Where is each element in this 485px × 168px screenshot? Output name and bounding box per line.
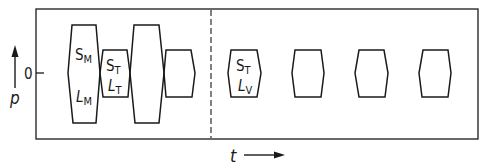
y-axis-arrow	[12, 45, 19, 88]
svg-text:LM: LM	[76, 88, 92, 108]
pulse-7-shape	[355, 50, 388, 97]
pulse-8-shape	[419, 50, 451, 97]
svg-text:LT: LT	[108, 77, 123, 97]
y-axis-label: p	[9, 88, 20, 108]
svg-text:ST: ST	[106, 57, 122, 77]
pulse-5-labels: ST LV	[236, 57, 253, 97]
x-axis-label: t	[230, 145, 237, 166]
x-axis-arrow	[244, 152, 285, 159]
pulse-6-shape	[292, 50, 324, 97]
svg-text:LV: LV	[238, 77, 253, 97]
pulse-diagram: p 0 SM LM ST LT ST LV t	[0, 0, 485, 168]
pulse-2-labels: ST LT	[106, 57, 123, 97]
plot-frame	[36, 9, 478, 139]
pulse-1-shape	[68, 25, 100, 123]
svg-text:ST: ST	[236, 57, 252, 77]
pulse-3-shape	[130, 25, 164, 123]
svg-text:SM: SM	[75, 46, 92, 66]
pulse-1-labels: SM LM	[75, 46, 92, 108]
y-zero-label: 0	[24, 65, 33, 83]
pulse-4-shape	[164, 50, 195, 97]
